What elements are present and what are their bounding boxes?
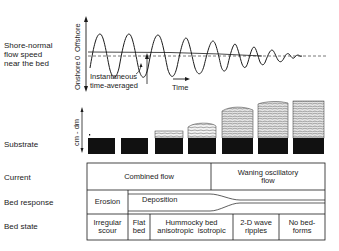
legend-time-averaged: time-averaged xyxy=(90,81,138,90)
substrate-scale-label: cm - dm xyxy=(72,119,81,146)
waning-line-2: flow xyxy=(261,177,274,185)
time-averaged-line xyxy=(88,52,262,56)
cell-combined-flow: Combined flow xyxy=(87,163,211,190)
substrate-block-4 xyxy=(188,123,216,154)
instantaneous-pointer-icon xyxy=(140,63,143,67)
axis-label-onshore: Onshore xyxy=(73,61,82,90)
arrow-up-icon xyxy=(81,107,84,112)
substrate-blocks xyxy=(88,101,324,154)
bed-state-line: scour xyxy=(98,227,116,235)
axis-label-zero: 0 xyxy=(73,56,82,60)
time-axis-label: Time xyxy=(172,83,188,92)
cell-flat-bed: Flat bed xyxy=(128,214,150,240)
bed-state-line: bed xyxy=(133,227,146,235)
time-arrow-icon xyxy=(185,77,190,81)
substrate-block-6 xyxy=(258,102,288,154)
cell-2d-wave-ripples: 2-D wave ripples xyxy=(233,214,279,240)
arrow-down-icon xyxy=(84,86,88,92)
flow-axis xyxy=(84,16,88,92)
arrow-up-icon xyxy=(84,16,88,22)
cell-deposition: Deposition xyxy=(134,193,212,207)
axis-label-offshore: Offshore xyxy=(73,23,82,52)
cell-irregular-scour: Irregular scour xyxy=(87,214,128,240)
substrate-block-2 xyxy=(121,138,148,154)
bed-state-line: forms xyxy=(293,227,312,235)
substrate-block-1 xyxy=(88,138,115,154)
bed-state-line: ripples xyxy=(245,227,267,235)
bed-state-line: anisotropic isotropic xyxy=(157,227,225,235)
cell-hummocky-bed: Hummocky bed anisotropic isotropic xyxy=(150,214,233,240)
substrate-block-5 xyxy=(222,107,253,154)
cell-erosion: Erosion xyxy=(87,190,128,214)
arrow-down-icon xyxy=(81,148,84,153)
substrate-block-3 xyxy=(155,131,183,154)
legend-instantaneous: Instantaneous xyxy=(90,72,137,81)
cell-waning-oscillatory-flow: Waning oscillatory flow xyxy=(211,163,325,190)
cell-no-bedforms: No bed- forms xyxy=(279,214,325,240)
substrate-block-7 xyxy=(293,101,324,154)
